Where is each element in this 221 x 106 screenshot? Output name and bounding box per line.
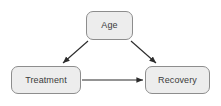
node-recovery[interactable]: Recovery [145, 66, 210, 94]
node-treatment-label: Treatment [25, 76, 67, 85]
node-recovery-label: Recovery [158, 76, 197, 85]
node-age[interactable]: Age [86, 11, 133, 40]
node-treatment[interactable]: Treatment [11, 66, 81, 94]
edge-age-to-treatment [63, 41, 88, 63]
edge-age-to-recovery [131, 41, 156, 63]
node-age-label: Age [101, 21, 117, 30]
diagram-canvas: Age Treatment Recovery [0, 0, 221, 106]
